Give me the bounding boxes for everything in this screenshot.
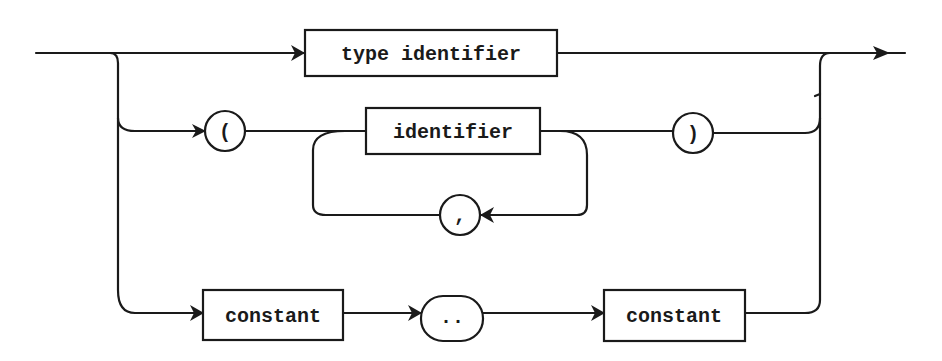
left-branch bbox=[110, 53, 206, 321]
range-dots-node: .. bbox=[421, 296, 483, 341]
open-paren-node: ( bbox=[205, 111, 245, 151]
close-paren-label: ) bbox=[687, 123, 699, 146]
constant-low-node: constant bbox=[203, 290, 343, 340]
right-branch bbox=[713, 53, 830, 313]
syntax-diagram: type identifier ( identifier ) , bbox=[0, 0, 942, 361]
open-paren-label: ( bbox=[219, 121, 231, 144]
constant-low-label: constant bbox=[225, 305, 321, 328]
type-identifier-node: type identifier bbox=[305, 30, 557, 76]
constant-high-node: constant bbox=[604, 290, 745, 341]
constant-high-label: constant bbox=[626, 305, 722, 328]
comma-node: , bbox=[440, 195, 480, 235]
type-identifier-label: type identifier bbox=[341, 43, 521, 66]
comma-label: , bbox=[454, 204, 466, 227]
subrange-row: constant .. constant bbox=[203, 290, 745, 341]
identifier-node: identifier bbox=[366, 108, 540, 154]
close-paren-node: ) bbox=[673, 113, 713, 153]
identifier-label: identifier bbox=[393, 121, 513, 144]
identifier-list-row: ( identifier ) , bbox=[205, 108, 713, 235]
range-dots-label: .. bbox=[440, 306, 464, 329]
